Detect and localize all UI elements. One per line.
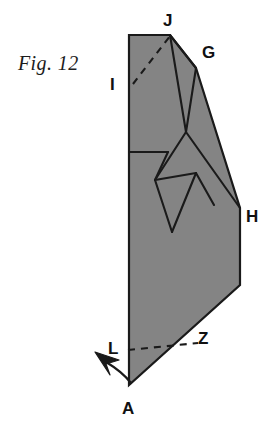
point-label-h: H (246, 208, 258, 225)
figure-caption: Fig. 12 (18, 52, 79, 75)
point-label-l: L (108, 340, 118, 357)
point-label-g: G (202, 44, 215, 61)
point-label-j: J (163, 12, 172, 29)
point-label-i: I (110, 76, 115, 93)
fold-arrow-curve (106, 362, 131, 383)
figure-container: Fig. 12 J G I H L Z A (0, 0, 280, 432)
point-label-z: Z (198, 330, 208, 347)
point-label-a: A (122, 400, 134, 417)
folded-paper-shape (129, 35, 240, 385)
